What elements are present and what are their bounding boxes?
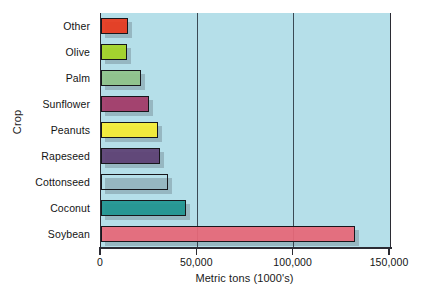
bar-sunflower[interactable] — [101, 96, 390, 112]
bar-body — [101, 122, 158, 138]
bar-fill — [102, 19, 127, 33]
x-tick-label-50000: 50,000 — [180, 256, 213, 268]
bar-body — [101, 44, 127, 60]
bar-fill — [102, 149, 159, 163]
bar-soybean[interactable] — [101, 226, 390, 242]
bar-coconut[interactable] — [101, 200, 390, 216]
bar-body — [101, 18, 128, 34]
x-axis-title: Metric tons (1000's) — [100, 272, 389, 284]
bar-fill — [102, 71, 140, 85]
y-tick-label-peanuts: Peanuts — [51, 124, 90, 136]
bar-other[interactable] — [101, 18, 390, 34]
y-tick-label-sunflower: Sunflower — [42, 98, 90, 110]
x-tick-100000 — [292, 249, 293, 255]
y-tick-label-rapeseed: Rapeseed — [41, 150, 90, 162]
y-tick-label-coconut: Coconut — [50, 202, 90, 214]
y-tick-label-olive: Olive — [66, 46, 90, 58]
x-tick-label-0: 0 — [97, 256, 103, 268]
bar-fill — [102, 201, 185, 215]
y-axis-tick-labels: OtherOlivePalmSunflowerPeanutsRapeseedCo… — [0, 13, 95, 247]
x-tick-150000 — [388, 249, 389, 255]
bar-cottonseed[interactable] — [101, 174, 390, 190]
x-tick-0 — [99, 249, 100, 255]
bar-olive[interactable] — [101, 44, 390, 60]
x-tick-label-100000: 100,000 — [273, 256, 312, 268]
bar-fill — [102, 97, 148, 111]
x-tick-50000 — [196, 249, 197, 255]
bar-palm[interactable] — [101, 70, 390, 86]
bar-body — [101, 148, 160, 164]
bar-fill — [102, 175, 167, 189]
bars-layer — [101, 13, 390, 247]
bar-chart: Crop OtherOlivePalmSunflowerPeanutsRapes… — [0, 0, 431, 296]
bar-body — [101, 226, 355, 242]
bar-fill — [102, 45, 126, 59]
bar-fill — [102, 227, 354, 241]
plot-area — [100, 13, 391, 247]
y-tick-label-soybean: Soybean — [48, 228, 90, 240]
bar-fill — [102, 123, 157, 137]
bar-rapeseed[interactable] — [101, 148, 390, 164]
bar-body — [101, 96, 149, 112]
y-tick-label-cottonseed: Cottonseed — [35, 176, 90, 188]
y-tick-label-other: Other — [63, 20, 90, 32]
bar-body — [101, 174, 168, 190]
bar-peanuts[interactable] — [101, 122, 390, 138]
x-tick-label-150000: 150,000 — [370, 256, 409, 268]
y-tick-label-palm: Palm — [66, 72, 90, 84]
bar-body — [101, 70, 141, 86]
bar-body — [101, 200, 186, 216]
